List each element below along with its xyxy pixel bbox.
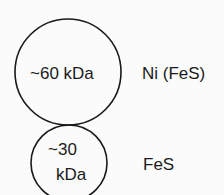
large-subunit-mass-label: ~60 kDa bbox=[30, 65, 94, 82]
subunit-diagram bbox=[0, 0, 224, 195]
small-subunit-circle bbox=[31, 125, 107, 195]
large-subunit-cofactor-label: Ni (FeS) bbox=[142, 65, 205, 82]
small-subunit-mass-label-line2: kDa bbox=[56, 166, 86, 183]
small-subunit-mass-label-line1: ~30 bbox=[48, 141, 77, 158]
small-subunit-cofactor-label: FeS bbox=[143, 156, 174, 173]
